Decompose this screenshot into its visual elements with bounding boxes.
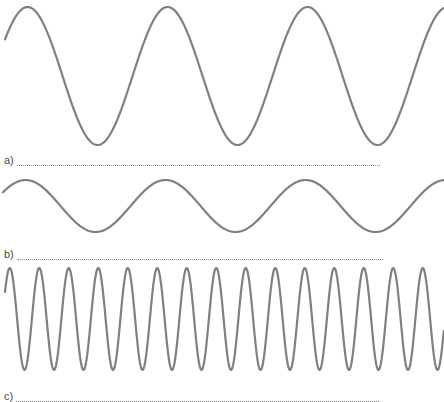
wave-a-container xyxy=(0,0,444,148)
wave-b-container xyxy=(0,170,444,242)
wave-b-curve xyxy=(3,180,444,232)
answer-blank-c[interactable] xyxy=(16,392,379,402)
answer-row-c[interactable]: c) xyxy=(0,384,444,402)
answer-label-b: b) xyxy=(0,248,17,260)
answer-blank-a[interactable] xyxy=(17,156,380,166)
wave-a-plot xyxy=(0,0,444,148)
answer-row-b[interactable]: b) xyxy=(0,242,444,260)
wave-b-plot xyxy=(0,170,444,242)
wave-c-curve xyxy=(5,268,444,370)
answer-row-a[interactable]: a) xyxy=(0,148,444,166)
wave-a-curve xyxy=(5,7,444,145)
wave-c-container xyxy=(0,262,444,378)
answer-label-a: a) xyxy=(0,154,17,166)
answer-label-c: c) xyxy=(0,390,16,402)
wave-c-plot xyxy=(0,262,444,378)
answer-blank-b[interactable] xyxy=(17,250,383,260)
